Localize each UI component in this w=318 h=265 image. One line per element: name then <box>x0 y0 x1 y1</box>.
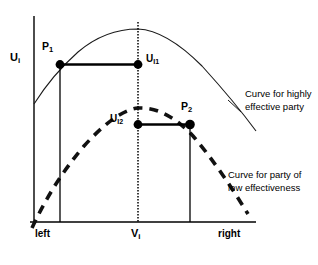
x-tick-label-right: right <box>218 228 240 239</box>
leader-line-high-effectiveness <box>228 100 241 112</box>
caption-highly-effective-party: Curve for highly effective party <box>245 87 312 113</box>
marker-p2 <box>185 120 195 130</box>
point-label-p1: P1 <box>42 41 53 52</box>
point-label-p2: P2 <box>181 101 192 112</box>
y-axis-label: Ui <box>10 52 20 63</box>
x-tick-label-left: left <box>35 228 50 239</box>
utility-label-ui1: UI1 <box>146 53 159 64</box>
utility-label-ui2: UI2 <box>110 113 123 124</box>
caption-low-effectiveness-party: Curve for party of low effectiveness <box>228 168 301 194</box>
diagram-canvas: Ui Vi left right P1 P2 UI1 UI2 Curve for… <box>0 0 318 265</box>
x-axis-label: Vi <box>131 228 141 239</box>
curve-highly-effective-party <box>34 29 256 131</box>
marker-ui1 <box>134 60 143 69</box>
marker-ui2 <box>134 120 143 129</box>
marker-p1 <box>56 60 65 69</box>
